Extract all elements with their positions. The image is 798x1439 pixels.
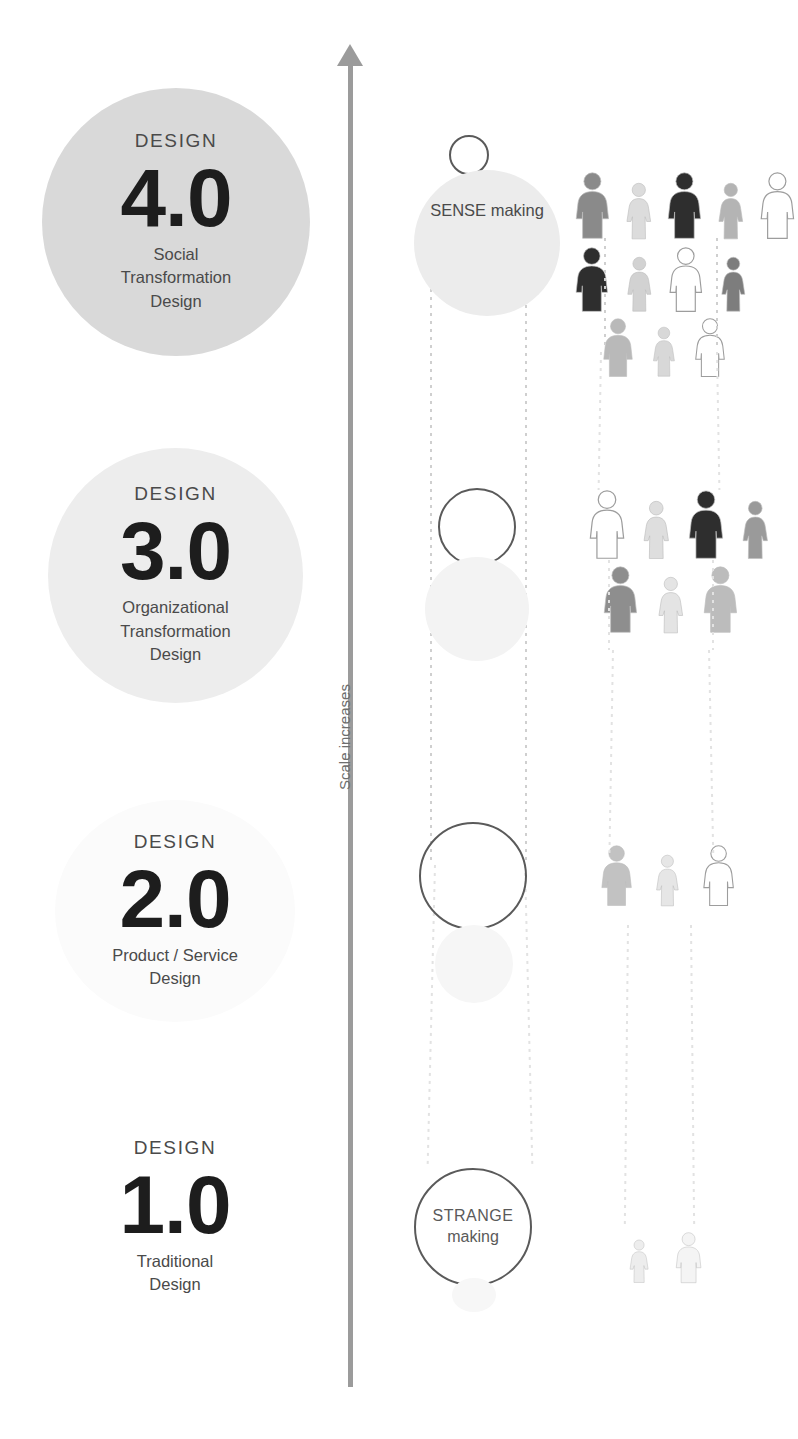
strange-making-low: making bbox=[447, 1228, 499, 1245]
design-level-2-desc-line-2: Design bbox=[112, 967, 238, 990]
people-connector-left-tail bbox=[608, 650, 614, 855]
people-connector-left-bottom bbox=[624, 925, 629, 1225]
person-icon bbox=[692, 318, 728, 378]
design-level-1: DESIGN 1.0 Traditional Design bbox=[55, 1108, 295, 1326]
person-icon bbox=[715, 182, 747, 240]
person-icon bbox=[650, 326, 678, 378]
blob-level-4 bbox=[414, 170, 560, 316]
person-icon bbox=[598, 845, 635, 907]
people-connector-right-bottom bbox=[690, 925, 695, 1225]
design-level-1-desc-line-1: Traditional bbox=[137, 1250, 213, 1273]
design-level-3-desc-line-3: Design bbox=[120, 643, 230, 666]
person-icon bbox=[664, 172, 705, 240]
design-level-4-kicker: DESIGN bbox=[135, 131, 217, 150]
people-connector-left-upper bbox=[604, 238, 606, 348]
ring-level-2 bbox=[419, 822, 527, 930]
scale-axis-label: Scale increases bbox=[336, 684, 353, 790]
person-icon bbox=[739, 500, 772, 560]
person-icon bbox=[700, 566, 741, 634]
design-level-2-kicker: DESIGN bbox=[134, 832, 216, 851]
person-icon bbox=[572, 172, 613, 240]
design-level-4-desc-line-1: Social bbox=[121, 243, 231, 266]
design-level-1-desc-line-2: Design bbox=[137, 1273, 213, 1296]
strange-making-label: STRANGE making bbox=[433, 1206, 514, 1248]
person-icon bbox=[757, 172, 798, 240]
ring-level-1: STRANGE making bbox=[414, 1168, 532, 1286]
people-connector-right-tail bbox=[708, 650, 714, 855]
design-level-3-description: Organizational Transformation Design bbox=[120, 596, 230, 666]
person-icon bbox=[624, 256, 655, 313]
sense-making-label: SENSE making bbox=[414, 200, 560, 222]
design-level-4-desc-line-3: Design bbox=[121, 290, 231, 313]
middle-connector-right-lower bbox=[524, 865, 533, 1165]
sense-making-low: making bbox=[491, 201, 544, 219]
blob-level-1 bbox=[452, 1278, 496, 1312]
up-arrow-icon bbox=[337, 44, 363, 66]
blob-level-2 bbox=[435, 925, 513, 1003]
design-level-2: DESIGN 2.0 Product / Service Design bbox=[55, 800, 295, 1022]
person-icon bbox=[600, 566, 641, 634]
person-icon bbox=[640, 500, 673, 560]
middle-connector-left bbox=[430, 265, 432, 865]
person-icon bbox=[673, 1232, 704, 1284]
people-connector-left-mid bbox=[598, 352, 602, 490]
ring-level-3 bbox=[438, 488, 516, 566]
design-level-2-number: 2.0 bbox=[120, 860, 231, 938]
person-icon bbox=[700, 845, 737, 907]
design-level-1-kicker: DESIGN bbox=[134, 1138, 216, 1157]
person-icon bbox=[685, 490, 727, 560]
design-level-2-description: Product / Service Design bbox=[112, 944, 238, 991]
person-icon bbox=[653, 854, 682, 907]
design-level-4: DESIGN 4.0 Social Transformation Design bbox=[42, 88, 310, 356]
design-level-3-number: 3.0 bbox=[120, 512, 231, 590]
design-level-4-number: 4.0 bbox=[121, 159, 232, 237]
design-level-4-desc-line-2: Transformation bbox=[121, 266, 231, 289]
middle-connector-right bbox=[525, 265, 527, 865]
strange-making-cap: STRANGE bbox=[433, 1206, 514, 1227]
sense-making-cap: SENSE bbox=[430, 201, 486, 219]
design-level-3: DESIGN 3.0 Organizational Transformation… bbox=[48, 448, 303, 703]
person-icon bbox=[627, 1239, 651, 1284]
design-level-1-description: Traditional Design bbox=[137, 1250, 213, 1297]
design-level-3-desc-line-2: Transformation bbox=[120, 620, 230, 643]
person-icon bbox=[586, 490, 628, 560]
person-icon bbox=[718, 256, 749, 313]
people-connector-right-upper bbox=[716, 238, 718, 348]
person-icon bbox=[666, 247, 706, 313]
people-connector-right-lower bbox=[712, 560, 714, 650]
design-level-4-description: Social Transformation Design bbox=[121, 243, 231, 313]
design-level-3-kicker: DESIGN bbox=[134, 484, 216, 503]
person-icon bbox=[623, 182, 655, 240]
people-connector-left-lower bbox=[608, 560, 610, 650]
design-level-1-number: 1.0 bbox=[120, 1166, 231, 1244]
person-icon bbox=[655, 576, 687, 634]
ring-level-4 bbox=[449, 135, 489, 175]
blob-level-3 bbox=[425, 557, 529, 661]
design-level-2-desc-line-1: Product / Service bbox=[112, 944, 238, 967]
design-level-3-desc-line-1: Organizational bbox=[120, 596, 230, 619]
